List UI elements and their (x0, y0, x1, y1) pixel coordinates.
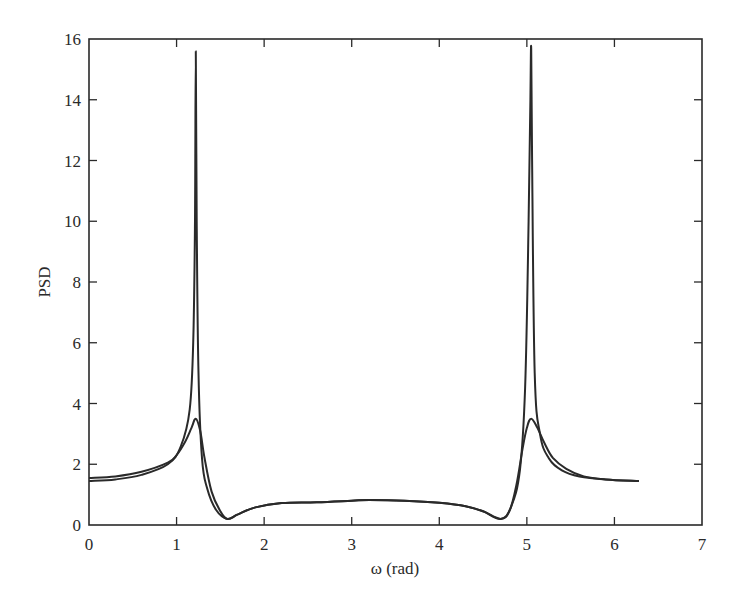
y-tick-label: 6 (73, 334, 82, 353)
y-tick-label: 14 (64, 91, 82, 110)
x-tick-label: 1 (172, 535, 181, 554)
x-tick-label: 7 (698, 535, 707, 554)
x-axis-label: ω (rad) (371, 559, 419, 578)
x-tick-label: 0 (85, 535, 94, 554)
series-line-0 (89, 46, 639, 519)
psd-chart: 01234567 0246810121416 ω (rad) PSD (0, 0, 744, 608)
series-layer (89, 46, 639, 519)
x-tick-label: 6 (610, 535, 619, 554)
y-tick-label: 8 (73, 273, 82, 292)
y-axis-label: PSD (35, 266, 54, 297)
y-tick-label: 10 (64, 212, 81, 231)
plot-border (89, 39, 702, 525)
y-axis-ticks: 0246810121416 (64, 30, 702, 535)
x-axis-ticks: 01234567 (85, 39, 707, 554)
y-tick-label: 2 (73, 455, 82, 474)
y-tick-label: 0 (73, 516, 82, 535)
plot-frame (89, 39, 702, 525)
x-tick-label: 2 (260, 535, 269, 554)
y-tick-label: 12 (64, 152, 81, 171)
y-tick-label: 4 (73, 395, 82, 414)
series-line-1 (89, 419, 639, 519)
x-tick-label: 4 (435, 535, 444, 554)
y-tick-label: 16 (64, 30, 81, 49)
x-tick-label: 3 (347, 535, 356, 554)
x-tick-label: 5 (523, 535, 532, 554)
